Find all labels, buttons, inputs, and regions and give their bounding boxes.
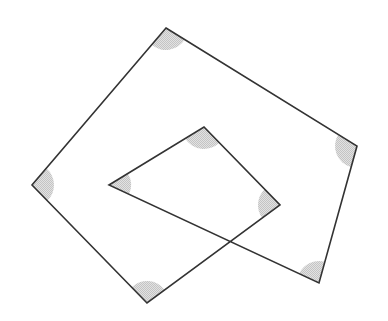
polygon-outline [32,28,357,303]
polygon-diagram [0,0,388,321]
angle-markers [32,28,357,303]
